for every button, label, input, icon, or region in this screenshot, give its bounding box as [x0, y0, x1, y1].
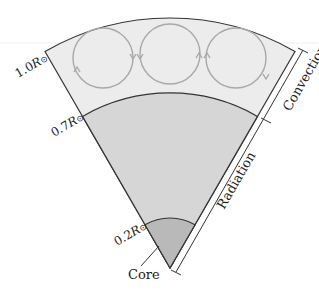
scale-tick-top: [298, 48, 308, 53]
core-zone: [145, 218, 195, 268]
sun-interior-diagram: Convection Radiation 1.0R⊙ 0.7R⊙ 0.2R⊙ C…: [0, 0, 319, 293]
radius-label-1-0: 1.0R⊙: [13, 51, 51, 81]
radius-label-0-7: 0.7R⊙: [49, 110, 87, 140]
core-label: Core: [128, 267, 160, 282]
radius-label-0-2: 0.2R⊙: [112, 219, 150, 249]
scale-tick-bottom: [171, 270, 181, 275]
core-leader-line: [141, 246, 159, 266]
